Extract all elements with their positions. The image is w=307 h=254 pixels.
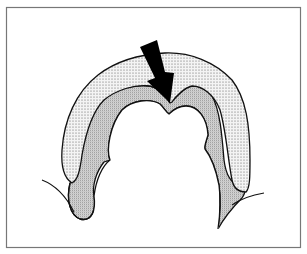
anatomical-figure bbox=[0, 0, 307, 254]
figure-canvas bbox=[0, 0, 307, 254]
